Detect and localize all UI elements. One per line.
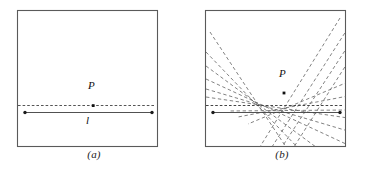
panel-a: P l (a) [0, 0, 188, 169]
figure-root: P l (a) [0, 0, 376, 169]
panel-a-segment-endpoint-right [150, 111, 153, 114]
panel-b-caption: (b) [188, 148, 376, 160]
panel-b-segment-endpoint-left [211, 111, 214, 114]
panel-b-frame [206, 11, 346, 147]
panel-b-segment-endpoint-right [338, 111, 341, 114]
panel-a-point-p-label: P [88, 79, 95, 91]
panel-b: P (b) [188, 0, 376, 169]
panel-b-point-p-label: P [279, 67, 286, 79]
panel-a-line-l-label: l [86, 114, 89, 126]
panel-a-segment-endpoint-left [23, 111, 26, 114]
panel-a-point-p-marker [92, 104, 95, 107]
panel-b-point-p-marker [283, 92, 286, 95]
panel-a-caption: (a) [0, 148, 188, 160]
panel-b-drawing [188, 0, 376, 169]
